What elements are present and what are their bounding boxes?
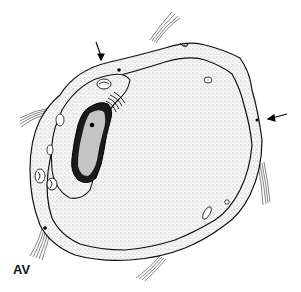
arrow-icon-right xyxy=(268,114,287,121)
fiber-bundle-right xyxy=(258,162,270,205)
fiber-bundle-bottom xyxy=(136,256,166,281)
figure: AV xyxy=(0,0,301,292)
arrow-icon-top xyxy=(96,42,104,60)
capillary-diagram xyxy=(0,0,301,292)
nucleolus xyxy=(90,123,95,128)
figure-label: AV xyxy=(13,262,30,277)
fiber-bundle-top xyxy=(150,12,180,43)
